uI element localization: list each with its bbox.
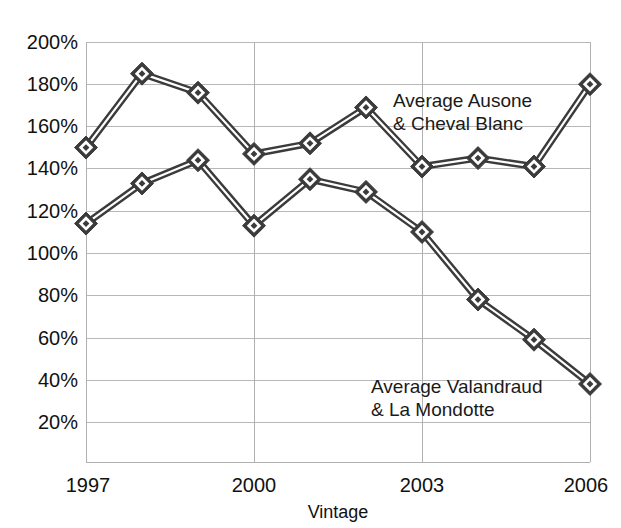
xtick-label: 1997 xyxy=(66,474,111,496)
ytick-label: 160% xyxy=(27,115,78,137)
chart-canvas: 200% 180% 160% 140% 120% 100% 80% 60% 40… xyxy=(0,0,621,528)
annotation-ausone-line2: & Cheval Blanc xyxy=(393,113,523,134)
y-axis-ticks: 200% 180% 160% 140% 120% 100% 80% 60% 40… xyxy=(27,31,78,433)
line-chart: 200% 180% 160% 140% 120% 100% 80% 60% 40… xyxy=(0,0,621,528)
x-axis-ticks: 1997 2000 2003 2006 xyxy=(66,474,609,496)
annotation-valandraud-line2: & La Mondotte xyxy=(371,399,495,420)
ytick-label: 200% xyxy=(27,31,78,53)
ytick-label: 80% xyxy=(38,284,78,306)
ytick-label: 20% xyxy=(38,411,78,433)
ytick-label: 100% xyxy=(27,242,78,264)
ytick-label: 120% xyxy=(27,200,78,222)
xtick-label: 2006 xyxy=(564,474,609,496)
x-axis-title: Vintage xyxy=(308,502,369,522)
ytick-label: 60% xyxy=(38,327,78,349)
annotation-valandraud-line1: Average Valandraud xyxy=(371,376,542,397)
ytick-label: 140% xyxy=(27,157,78,179)
xtick-label: 2003 xyxy=(400,474,445,496)
ytick-label: 40% xyxy=(38,369,78,391)
ytick-label: 180% xyxy=(27,73,78,95)
annotation-ausone-line1: Average Ausone xyxy=(393,90,532,111)
xtick-label: 2000 xyxy=(232,474,277,496)
